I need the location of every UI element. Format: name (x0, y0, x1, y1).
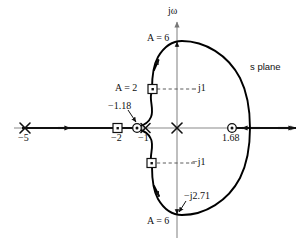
gain-A2-upper-marker (148, 85, 157, 94)
j1-upper-label: j1 (198, 83, 206, 93)
gain-A2-lower-marker (147, 159, 156, 168)
gain-A2-label: A = 2 (115, 83, 137, 93)
gain-A6-bottom-label: A = 6 (147, 216, 169, 226)
breakaway-neg118-marker (133, 124, 142, 133)
gain-A6-top-label: A = 6 (147, 33, 169, 43)
breakaway-neg118-label: −1.18 (108, 101, 131, 111)
locus-upper-inner (138, 89, 152, 127)
zero-168-marker (228, 124, 237, 133)
s-plane-label: s plane (250, 62, 281, 72)
leader-neg118 (128, 110, 136, 122)
pole-neg5-label: −5 (18, 133, 29, 143)
pole-neg1-label: −1 (138, 133, 149, 143)
j271-label: −j2.71 (184, 191, 210, 201)
zero-neg2-label: −2 (111, 133, 122, 143)
imaginary-axis-label: jω (168, 6, 177, 16)
axis-lines (14, 22, 296, 238)
leader-j271 (179, 201, 186, 212)
root-locus-figure: jω s plane −5 −2 −1 −1.18 1.68 A = 2 A =… (0, 0, 303, 247)
tick-marks (191, 89, 196, 163)
j1-lower-label: −j1 (192, 157, 205, 167)
zero-168-label: 1.68 (222, 133, 240, 143)
